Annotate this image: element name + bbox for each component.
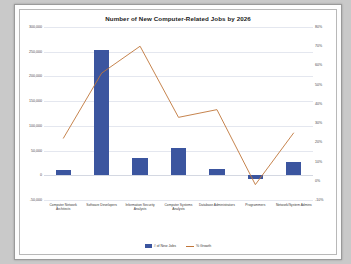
chart-container[interactable]: Number of New Computer-Related Jobs by 2… [19, 9, 337, 255]
y-axis-tick-label: 150,000 [29, 99, 42, 103]
y-axis-tick-label: 250,000 [29, 50, 42, 54]
y-axis-right-tick-label: -10% [315, 198, 323, 202]
category-label: Network/System Admins [274, 203, 314, 207]
line-series-group [44, 27, 313, 200]
y-axis-right-tick-label: 60% [315, 63, 322, 67]
legend-line-swatch-icon [186, 246, 194, 247]
line-path[interactable] [63, 46, 294, 184]
y-axis-tick-label: 0 [40, 173, 42, 177]
chart-legend: # of New Jobs % Growth [20, 244, 336, 248]
gridline [44, 200, 313, 201]
category-label: Programmers [235, 203, 275, 207]
y-axis-right-tick-label: 70% [315, 44, 322, 48]
y-axis-tick-label: -50,000 [30, 198, 42, 202]
plot-area: 300,000250,000200,000150,000100,00050,00… [44, 27, 313, 200]
category-label: Computer Systems Analysts [159, 203, 199, 211]
y-axis-right-tick-label: 10% [315, 160, 322, 164]
document-sheet: Number of New Computer-Related Jobs by 2… [14, 4, 342, 260]
category-label: Information Security Analysts [120, 203, 160, 211]
y-axis-right-tick-label: 0% [315, 179, 320, 183]
legend-item-line[interactable]: % Growth [186, 244, 211, 248]
category-label: Database Administrators [197, 203, 237, 207]
legend-label-bars: # of New Jobs [154, 244, 176, 248]
y-axis-tick-label: 50,000 [31, 149, 42, 153]
screenshot-page: Number of New Computer-Related Jobs by 2… [0, 0, 351, 264]
y-axis-tick-label: 300,000 [29, 25, 42, 29]
y-axis-tick-label: 200,000 [29, 74, 42, 78]
plot-canvas: 300,000250,000200,000150,000100,00050,00… [44, 27, 313, 200]
y-axis-tick-label: 100,000 [29, 124, 42, 128]
legend-label-line: % Growth [196, 244, 211, 248]
y-axis-right-tick-label: 80% [315, 25, 322, 29]
category-label: Computer Network Architects [43, 203, 83, 211]
chart-title: Number of New Computer-Related Jobs by 2… [20, 15, 336, 22]
y-axis-right-tick-label: 50% [315, 83, 322, 87]
legend-item-bars[interactable]: # of New Jobs [145, 244, 176, 248]
category-label: Software Developers [82, 203, 122, 207]
legend-bar-swatch-icon [145, 244, 152, 248]
y-axis-right-tick-label: 20% [315, 140, 322, 144]
y-axis-right-tick-label: 40% [315, 102, 322, 106]
y-axis-right-tick-label: 30% [315, 121, 322, 125]
